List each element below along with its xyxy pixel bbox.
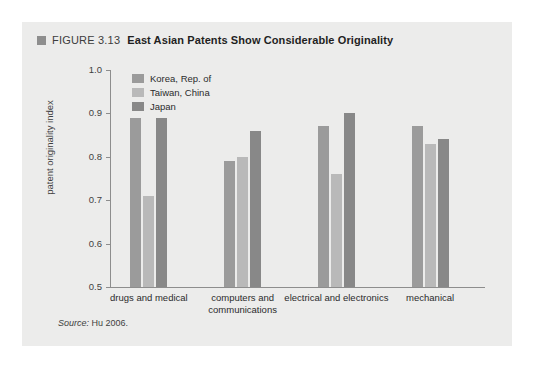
x-category-label: mechanical	[375, 292, 485, 304]
bar-group	[318, 70, 355, 287]
bar	[250, 131, 261, 287]
y-tick-mark	[106, 200, 111, 201]
plot-area: 1.00.90.80.70.60.5 patent originality in…	[22, 22, 512, 346]
y-tick-label: 0.5	[62, 281, 102, 292]
y-tick-label: 0.9	[62, 107, 102, 118]
bar	[412, 126, 423, 287]
bar	[331, 174, 342, 287]
bar-group	[412, 70, 449, 287]
bar	[438, 139, 449, 287]
bar	[318, 126, 329, 287]
bar	[344, 113, 355, 287]
figure-root: FIGURE 3.13 East Asian Patents Show Cons…	[0, 0, 533, 367]
source-note: Source: Hu 2006.	[58, 318, 128, 328]
y-tick-mark	[106, 287, 111, 288]
source-prefix: Source:	[58, 318, 89, 328]
bar	[156, 118, 167, 287]
y-tick-mark	[106, 113, 111, 114]
figure-panel: FIGURE 3.13 East Asian Patents Show Cons…	[22, 22, 512, 346]
y-tick-mark	[106, 244, 111, 245]
y-tick-label: 0.8	[62, 151, 102, 162]
y-axis-title: patent originality index	[44, 83, 55, 213]
y-tick-mark	[106, 157, 111, 158]
bar	[224, 161, 235, 287]
x-axis-line	[110, 287, 485, 288]
bar	[237, 157, 248, 287]
bar	[425, 144, 436, 287]
y-tick-label: 0.7	[62, 194, 102, 205]
y-tick-label: 0.6	[62, 238, 102, 249]
bar	[143, 196, 154, 287]
bar-group	[224, 70, 261, 287]
bar-group	[130, 70, 167, 287]
source-text: Hu 2006.	[92, 318, 129, 328]
y-axis-line	[110, 70, 111, 288]
bar	[130, 118, 141, 287]
y-tick-label: 1.0	[62, 64, 102, 75]
y-tick-mark	[106, 70, 111, 71]
